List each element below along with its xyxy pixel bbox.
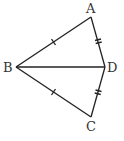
tick-mark-dc-2: [95, 93, 101, 95]
tick-mark-bc: [52, 89, 56, 95]
tick-mark-ad-2: [96, 42, 102, 44]
tick-mark-ab: [52, 39, 56, 45]
label-a: A: [85, 1, 96, 16]
segment-ad: [91, 17, 105, 67]
tick-mark-dc-1: [96, 90, 102, 92]
label-c: C: [86, 119, 96, 134]
tick-mark-ad-1: [95, 39, 101, 41]
kite-figure: A B C D: [0, 0, 124, 141]
segment-dc: [91, 67, 105, 117]
label-d: D: [107, 60, 117, 75]
label-b: B: [3, 60, 13, 75]
geometry-diagram: A B C D: [0, 0, 124, 141]
